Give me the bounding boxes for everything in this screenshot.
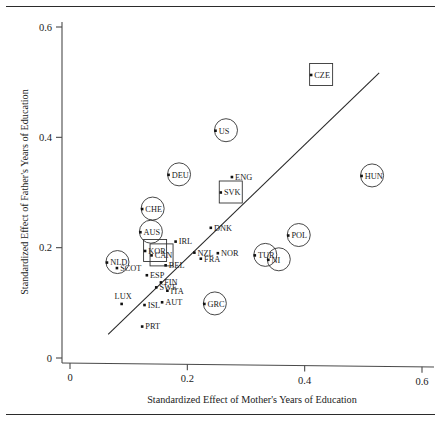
point-label: SCOT xyxy=(120,264,141,273)
point-label: DEU xyxy=(172,171,189,180)
data-point-prt: PRT xyxy=(141,322,160,331)
point-label: NOR xyxy=(221,249,239,258)
data-point-esp: ESP xyxy=(146,271,165,280)
point-marker xyxy=(166,289,169,292)
point-label: ESP xyxy=(150,271,165,280)
point-marker xyxy=(146,274,149,277)
figure-container: 00.20.40.600.20.40.6 CZEUSDEUHUNENGSVKCH… xyxy=(0,0,441,426)
x-tick-label: 0.4 xyxy=(298,375,312,386)
point-marker xyxy=(167,174,170,177)
point-label: AUS xyxy=(144,228,161,237)
point-label: IRL xyxy=(179,237,192,246)
point-marker xyxy=(267,259,270,262)
point-marker xyxy=(143,304,146,307)
point-label: US xyxy=(219,127,230,136)
point-marker xyxy=(310,74,313,77)
axis-titles-group: Standardized Effect of Mother's Years of… xyxy=(19,89,357,405)
fit-line-group xyxy=(108,73,379,334)
point-marker xyxy=(231,176,234,179)
data-point-isl: ISL xyxy=(143,301,160,310)
point-label: ISL xyxy=(148,301,160,310)
data-point-svk: SVK xyxy=(219,181,242,203)
point-marker xyxy=(193,251,196,254)
point-label: AUT xyxy=(165,298,182,307)
point-label: SVK xyxy=(224,188,241,197)
point-marker xyxy=(214,129,217,132)
y-tick-label: 0.2 xyxy=(39,242,52,253)
y-axis-title: Standardized Effect of Father's Years of… xyxy=(19,89,30,295)
point-marker xyxy=(203,303,206,306)
y-tick-label: 0 xyxy=(47,353,52,364)
x-tick-label: 0.6 xyxy=(415,376,428,387)
data-point-us: US xyxy=(214,119,237,142)
data-point-grc: GRC xyxy=(203,292,226,315)
point-marker xyxy=(139,231,142,234)
point-marker xyxy=(219,191,222,194)
point-label: HUN xyxy=(365,172,383,181)
point-marker xyxy=(106,261,109,264)
point-label: CAN xyxy=(155,251,173,260)
point-marker xyxy=(287,234,290,237)
point-marker xyxy=(161,301,164,304)
data-point-deu: DEU xyxy=(167,163,190,186)
x-tick-label: 0 xyxy=(67,372,72,383)
point-marker xyxy=(174,240,177,243)
point-label: POL xyxy=(291,231,307,240)
point-marker xyxy=(164,264,167,267)
point-marker xyxy=(120,303,123,306)
data-points-group: CZEUSDEUHUNENGSVKCHEDNKAUSPOLIRLKORNZLNO… xyxy=(106,63,384,331)
x-axis-line xyxy=(62,363,434,367)
point-label: FRA xyxy=(204,255,220,264)
point-label: DNK xyxy=(214,224,232,233)
point-marker xyxy=(150,254,153,257)
point-marker xyxy=(141,325,144,328)
point-label: NI xyxy=(271,256,280,265)
point-label: PRT xyxy=(145,322,160,331)
data-point-irl: IRL xyxy=(174,237,192,246)
data-point-hun: HUN xyxy=(360,164,383,187)
data-point-cze: CZE xyxy=(310,63,333,85)
data-point-pol: POL xyxy=(287,224,310,247)
diagonal-fit-line xyxy=(108,73,379,334)
point-marker xyxy=(144,250,147,253)
point-label: LUX xyxy=(115,292,132,301)
point-marker xyxy=(254,254,257,257)
point-marker xyxy=(141,208,144,211)
point-marker xyxy=(200,257,203,260)
point-marker xyxy=(360,175,363,178)
data-point-aut: AUT xyxy=(161,298,183,307)
data-point-lux: LUX xyxy=(115,292,132,305)
point-marker xyxy=(155,286,158,289)
point-label: ITA xyxy=(171,287,184,296)
scatter-plot: 00.20.40.600.20.40.6 CZEUSDEUHUNENGSVKCH… xyxy=(0,0,441,426)
x-tick-label: 0.2 xyxy=(181,373,194,384)
point-marker xyxy=(116,267,119,270)
point-label: GRC xyxy=(208,300,226,309)
point-label: BEL xyxy=(169,261,185,270)
y-tick-label: 0.6 xyxy=(39,22,52,33)
data-point-dnk: DNK xyxy=(210,224,232,233)
point-label: CZE xyxy=(314,71,330,80)
x-axis-title: Standardized Effect of Mother's Years of… xyxy=(147,394,357,405)
data-point-scot: SCOT xyxy=(116,264,142,273)
y-tick-label: 0.4 xyxy=(39,132,53,143)
point-label: CHE xyxy=(145,205,162,214)
point-marker xyxy=(210,227,213,230)
data-point-che: CHE xyxy=(141,197,164,220)
